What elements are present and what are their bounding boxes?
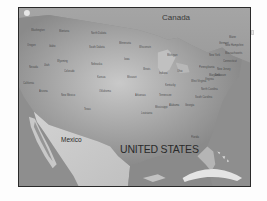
state-label-new-mexico: New Mexico xyxy=(61,94,75,97)
state-label-montana: Montana xyxy=(59,30,69,33)
country-label-mexico: Mexico xyxy=(61,136,82,143)
state-label-new-york: New York xyxy=(209,54,220,57)
state-label-idaho: Idaho xyxy=(49,45,56,48)
state-label-nebraska: Nebraska xyxy=(91,63,102,66)
state-label-nevada: Nevada xyxy=(29,66,38,69)
country-label-united-states: UNITED STATES xyxy=(120,143,199,155)
state-label-florida: Florida xyxy=(191,136,199,139)
state-label-michigan: Michigan xyxy=(167,54,177,57)
state-label-vermont: Vermont xyxy=(219,42,229,45)
state-label-maine: Maine xyxy=(229,36,236,39)
state-label-iowa: Iowa xyxy=(124,58,129,61)
state-label-north-carolina: North Carolina xyxy=(201,88,218,91)
state-label-west-virginia: West Virginia xyxy=(191,80,206,83)
map-frame: WashingtonMontanaNorth DakotaOregonIdaho… xyxy=(18,7,251,187)
state-label-connecticut: Connecticut xyxy=(223,60,237,63)
state-label-colorado: Colorado xyxy=(64,70,75,73)
frame-tab xyxy=(251,30,254,35)
state-label-arizona: Arizona xyxy=(39,90,48,93)
state-label-wyoming: Wyoming xyxy=(57,60,68,63)
state-label-maryland: Maryland xyxy=(209,74,220,77)
state-label-massachusetts: Massachusetts xyxy=(225,52,242,55)
state-label-oregon: Oregon xyxy=(27,44,36,47)
state-label-tennessee: Tennessee xyxy=(159,94,172,97)
corner-highlight xyxy=(24,10,30,16)
state-label-georgia: Georgia xyxy=(185,104,194,107)
map-canvas xyxy=(19,8,250,186)
state-label-utah: Utah xyxy=(44,64,49,67)
state-label-south-carolina: South Carolina xyxy=(195,96,212,99)
country-label-canada: Canada xyxy=(162,13,190,22)
state-label-mississippi: Mississippi xyxy=(155,106,168,109)
state-label-oklahoma: Oklahoma xyxy=(99,90,111,93)
state-label-alabama: Alabama xyxy=(169,104,179,107)
state-label-minnesota: Minnesota xyxy=(119,42,131,45)
state-label-wisconsin: Wisconsin xyxy=(139,46,151,49)
state-label-louisiana: Louisiana xyxy=(141,112,152,115)
state-label-california: California xyxy=(23,82,34,85)
state-label-washington: Washington xyxy=(31,29,45,32)
state-label-kentucky: Kentucky xyxy=(165,84,176,87)
state-label-missouri: Missouri xyxy=(127,76,137,79)
state-label-arkansas: Arkansas xyxy=(135,94,146,97)
state-label-south-dakota: South Dakota xyxy=(89,46,105,49)
state-label-texas: Texas xyxy=(84,108,91,111)
state-label-kansas: Kansas xyxy=(97,76,106,79)
state-label-virginia: Virginia xyxy=(205,78,214,81)
state-label-new-jersey: New Jersey xyxy=(217,68,231,71)
page: WashingtonMontanaNorth DakotaOregonIdaho… xyxy=(0,0,267,201)
state-label-illinois: Illinois xyxy=(143,68,150,71)
state-label-north-dakota: North Dakota xyxy=(91,32,106,35)
state-label-ohio: Ohio xyxy=(177,70,182,73)
state-label-pennsylvania: Pennsylvania xyxy=(199,66,214,69)
state-label-indiana: Indiana xyxy=(159,72,168,75)
